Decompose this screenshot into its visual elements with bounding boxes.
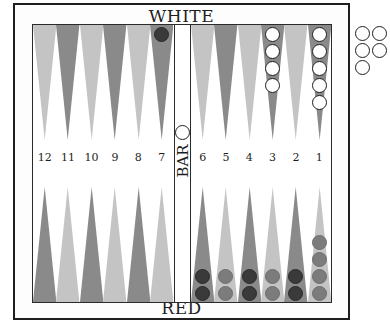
checker-white-borne-off[interactable] bbox=[355, 60, 370, 75]
checker-white[interactable] bbox=[312, 78, 327, 93]
checker-white-on-bar[interactable] bbox=[175, 125, 190, 140]
checker-white-borne-off[interactable] bbox=[372, 26, 387, 41]
left-half: 12 11 10 9 8 7 bbox=[33, 25, 174, 302]
checker-red[interactable] bbox=[265, 269, 280, 284]
player-label-white: WHITE bbox=[15, 6, 348, 26]
point-7[interactable] bbox=[150, 25, 173, 140]
playing-surface: 12 11 10 9 8 7 BAR 6 5 4 3 2 1 bbox=[32, 24, 332, 303]
point-21[interactable] bbox=[238, 187, 261, 302]
checker-black[interactable] bbox=[242, 286, 257, 301]
checker-red[interactable] bbox=[312, 235, 327, 250]
checker-black[interactable] bbox=[242, 269, 257, 284]
point-12[interactable] bbox=[33, 25, 56, 140]
point-number-3: 3 bbox=[261, 151, 284, 164]
point-23[interactable] bbox=[284, 187, 307, 302]
point-number-2: 2 bbox=[284, 151, 307, 164]
checker-black[interactable] bbox=[195, 269, 210, 284]
checker-white-borne-off[interactable] bbox=[355, 43, 370, 58]
point-17[interactable] bbox=[127, 187, 150, 302]
checker-black[interactable] bbox=[154, 27, 169, 42]
point-number-4: 4 bbox=[238, 151, 261, 164]
bar-label: BAR bbox=[174, 144, 192, 177]
point-13[interactable] bbox=[33, 187, 56, 302]
checker-red[interactable] bbox=[312, 252, 327, 267]
checker-white[interactable] bbox=[312, 95, 327, 110]
point-6[interactable] bbox=[191, 25, 214, 140]
point-4[interactable] bbox=[238, 25, 261, 140]
point-number-7: 7 bbox=[150, 151, 173, 164]
point-number-9: 9 bbox=[103, 151, 126, 164]
checker-white-borne-off[interactable] bbox=[372, 43, 387, 58]
point-20[interactable] bbox=[214, 187, 237, 302]
checker-white[interactable] bbox=[312, 44, 327, 59]
point-number-10: 10 bbox=[80, 151, 103, 164]
point-18[interactable] bbox=[150, 187, 173, 302]
point-22[interactable] bbox=[261, 187, 284, 302]
checker-white[interactable] bbox=[265, 78, 280, 93]
checker-red[interactable] bbox=[312, 269, 327, 284]
checker-white-borne-off[interactable] bbox=[355, 26, 370, 41]
point-number-1: 1 bbox=[308, 151, 331, 164]
point-number-5: 5 bbox=[214, 151, 237, 164]
checker-black[interactable] bbox=[195, 286, 210, 301]
point-14[interactable] bbox=[56, 187, 79, 302]
point-number-8: 8 bbox=[127, 151, 150, 164]
point-9[interactable] bbox=[103, 25, 126, 140]
point-15[interactable] bbox=[80, 187, 103, 302]
right-half: 6 5 4 3 2 1 bbox=[191, 25, 331, 302]
point-5[interactable] bbox=[214, 25, 237, 140]
checker-red[interactable] bbox=[265, 286, 280, 301]
point-16[interactable] bbox=[103, 187, 126, 302]
point-19[interactable] bbox=[191, 187, 214, 302]
checker-white[interactable] bbox=[265, 27, 280, 42]
checker-white[interactable] bbox=[312, 27, 327, 42]
checker-white[interactable] bbox=[265, 44, 280, 59]
checker-red[interactable] bbox=[312, 286, 327, 301]
point-8[interactable] bbox=[127, 25, 150, 140]
point-2[interactable] bbox=[284, 25, 307, 140]
bar[interactable]: BAR bbox=[174, 25, 191, 302]
checker-white[interactable] bbox=[265, 61, 280, 76]
point-11[interactable] bbox=[56, 25, 79, 140]
point-10[interactable] bbox=[80, 25, 103, 140]
checker-white[interactable] bbox=[312, 61, 327, 76]
point-number-11: 11 bbox=[56, 151, 79, 164]
point-number-12: 12 bbox=[33, 151, 56, 164]
point-number-6: 6 bbox=[191, 151, 214, 164]
